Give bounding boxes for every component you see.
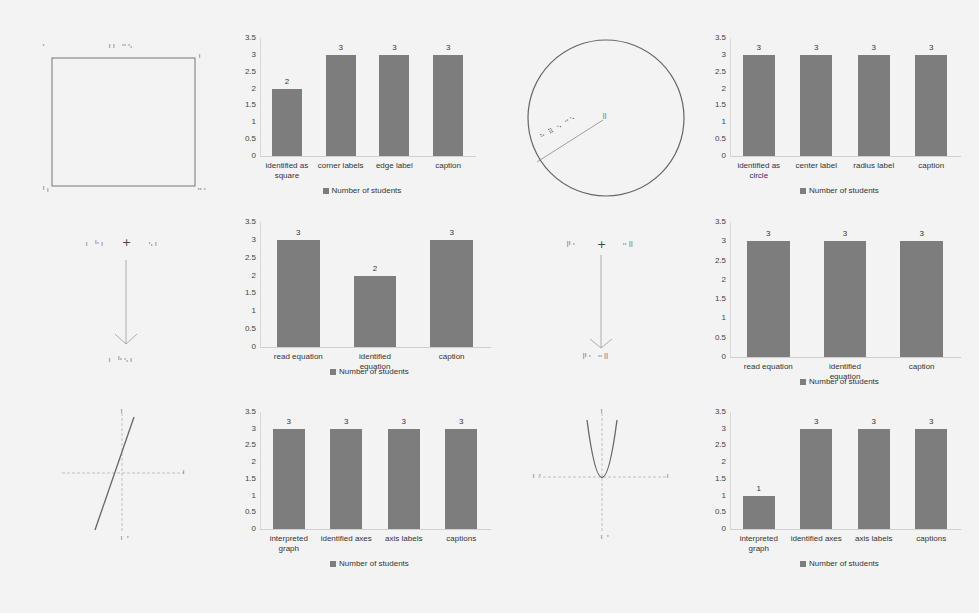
- bar: [743, 55, 775, 156]
- data-label: 3: [446, 417, 476, 426]
- data-label: 3: [326, 43, 356, 52]
- legend-label: Number of students: [809, 186, 879, 195]
- bar: [858, 429, 890, 529]
- data-label: 3: [916, 43, 946, 52]
- x-category-label: axis labels: [845, 534, 903, 544]
- legend-swatch-icon: [800, 379, 806, 385]
- x-category-label: identified axes: [788, 534, 846, 544]
- y-tick-label: 1.5: [708, 100, 726, 109]
- data-label: 3: [274, 417, 304, 426]
- x-category-label: identified as square: [260, 161, 314, 181]
- y-tick-label: 3.5: [238, 33, 256, 42]
- down-arrow-icon: [560, 235, 660, 375]
- axis-label: ⠆⠂: [532, 472, 544, 480]
- legend: Number of students: [800, 559, 879, 568]
- y-tick-label: 0.5: [708, 134, 726, 143]
- y-tick-label: 2: [708, 84, 726, 93]
- braille-label: ⠟⠂ ⠒⠿: [582, 353, 610, 361]
- data-label: 3: [283, 228, 313, 237]
- data-label: 3: [859, 417, 889, 426]
- bar: [915, 429, 947, 529]
- legend: Number of students: [330, 559, 409, 568]
- legend-label: Number of students: [339, 367, 409, 376]
- data-label: 2: [272, 77, 302, 86]
- y-tick-label: 0: [708, 352, 726, 361]
- y-tick-label: 2.5: [708, 256, 726, 265]
- y-tick-label: 2: [238, 457, 256, 466]
- braille-label: ⠆ ⠓⠢⠆: [108, 356, 136, 364]
- bar: [915, 55, 947, 156]
- bar: [354, 276, 397, 347]
- bar-chart-2: 3.532.521.510.503identified as circle3ce…: [690, 28, 970, 213]
- data-label: 3: [753, 229, 783, 238]
- linear-graph-icon: [60, 405, 220, 545]
- y-tick-label: 1.5: [238, 288, 256, 297]
- y-tick-label: 1.5: [238, 100, 256, 109]
- y-tick-label: 1: [238, 117, 256, 126]
- x-category-label: radius label: [845, 161, 903, 171]
- bar: [277, 240, 320, 347]
- x-category-label: interpreted graph: [730, 534, 788, 554]
- bar: [379, 55, 409, 156]
- axis-label: ⠆: [182, 468, 188, 476]
- bar: [800, 429, 832, 529]
- axis-label: ⠆: [600, 407, 606, 415]
- data-label: 3: [907, 229, 937, 238]
- y-tick-label: 1: [238, 306, 256, 315]
- bar: [858, 55, 890, 156]
- bar: [445, 429, 477, 529]
- braille-label: ⠁: [42, 44, 48, 52]
- y-tick-label: 3.5: [708, 217, 726, 226]
- bar: [824, 241, 867, 357]
- x-category-label: read equation: [267, 352, 329, 362]
- legend: Number of students: [800, 186, 879, 195]
- y-tick-label: 0: [238, 524, 256, 533]
- y-tick-label: 3: [708, 424, 726, 433]
- bar-chart-4: 3.532.521.510.503read equation3identifie…: [690, 212, 970, 397]
- square-figure: ⠁ ⠰⠆ ⠒⠢ ⠆ ⠘⠆ ⠒⠂: [40, 40, 210, 200]
- y-tick-label: 0: [238, 151, 256, 160]
- y-tick-label: 3.5: [708, 407, 726, 416]
- bar-chart-1: 3.532.521.510.502identified as square3co…: [220, 28, 500, 213]
- bar: [900, 241, 943, 357]
- data-label: 3: [801, 43, 831, 52]
- legend-swatch-icon: [330, 369, 336, 375]
- braille-label: ⠘⠆: [40, 186, 52, 194]
- bar-chart-5: 3.532.521.510.503interpreted graph3ident…: [220, 402, 500, 587]
- y-tick-label: 2: [238, 271, 256, 280]
- bar: [430, 240, 473, 347]
- braille-label: ⠰⠆ ⠒⠢: [106, 42, 134, 50]
- y-tick-label: 3.5: [238, 217, 256, 226]
- x-category-label: read equation: [737, 362, 799, 372]
- bar: [273, 429, 305, 529]
- y-tick-label: 1.5: [238, 474, 256, 483]
- circle-figure: ⠓ ⠿ ⠢ ⠒⠢ ⠿: [520, 35, 690, 200]
- square-shape-icon: [40, 40, 210, 200]
- y-tick-label: 0.5: [708, 507, 726, 516]
- y-tick-label: 0: [708, 151, 726, 160]
- bar-chart-6: 3.532.521.510.501interpreted graph3ident…: [690, 402, 970, 587]
- y-tick-label: 2: [238, 84, 256, 93]
- y-tick-label: 0.5: [238, 507, 256, 516]
- x-category-label: axis labels: [375, 534, 433, 544]
- down-arrow-icon: [80, 230, 180, 370]
- y-tick-label: 1: [708, 491, 726, 500]
- data-label: 3: [916, 417, 946, 426]
- axis-label: ⠆⠂: [120, 534, 132, 542]
- y-tick-label: 0.5: [238, 134, 256, 143]
- legend-swatch-icon: [330, 561, 336, 567]
- y-tick-label: 1.5: [708, 474, 726, 483]
- data-label: 1: [744, 484, 774, 493]
- x-category-label: caption: [891, 362, 953, 372]
- y-tick-label: 2: [708, 275, 726, 284]
- data-label: 3: [859, 43, 889, 52]
- bar: [800, 55, 832, 156]
- data-label: 3: [801, 417, 831, 426]
- y-tick-label: 3.5: [708, 33, 726, 42]
- y-tick-label: 2.5: [238, 253, 256, 262]
- legend-label: Number of students: [809, 377, 879, 386]
- y-tick-label: 1: [708, 313, 726, 322]
- linear-graph-figure: ⠆ ⠆ ⠆⠂: [60, 405, 220, 545]
- y-tick-label: 3: [238, 235, 256, 244]
- legend-label: Number of students: [809, 559, 879, 568]
